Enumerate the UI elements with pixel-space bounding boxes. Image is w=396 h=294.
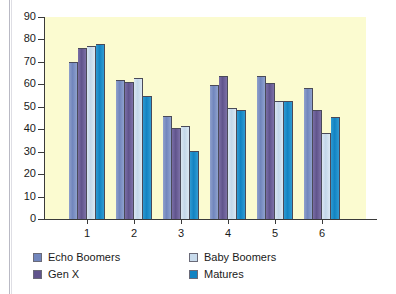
bar-echo-boomers-4[interactable]	[210, 85, 219, 219]
y-axis-tick-label: 40	[2, 123, 36, 134]
legend-item-echo-boomers[interactable]: Echo Boomers	[33, 250, 120, 264]
y-axis-tick	[38, 17, 44, 18]
bar-matures-2[interactable]	[143, 96, 152, 219]
legend-label: Echo Boomers	[48, 251, 120, 263]
y-axis-tick	[38, 84, 44, 85]
legend-swatch-icon	[33, 270, 42, 279]
legend-label: Gen X	[48, 268, 79, 280]
bar-gen-x-6[interactable]	[313, 110, 322, 219]
bar-baby-boomers-6[interactable]	[322, 133, 331, 219]
bar-echo-boomers-1[interactable]	[69, 62, 78, 219]
x-axis-tick-label: 5	[255, 228, 295, 239]
x-axis-tick-label: 3	[161, 228, 201, 239]
y-axis-tick	[38, 107, 44, 108]
y-axis-tick-label: 80	[2, 33, 36, 44]
y-axis-tick-label: 60	[2, 78, 36, 89]
x-axis-tick	[275, 220, 276, 224]
y-axis-tick	[38, 152, 44, 153]
y-axis-tick-label: 50	[2, 101, 36, 112]
legend-item-matures[interactable]: Matures	[189, 267, 244, 281]
bar-matures-3[interactable]	[190, 151, 199, 219]
y-axis-tick-label: 30	[2, 146, 36, 157]
bar-echo-boomers-6[interactable]	[304, 88, 313, 219]
chart-legend: Echo BoomersBaby BoomersGen XMatures	[33, 250, 333, 286]
legend-swatch-icon	[189, 253, 198, 262]
legend-swatch-icon	[33, 253, 42, 262]
x-axis-tick	[322, 220, 323, 224]
y-axis-tick	[38, 219, 44, 220]
bar-group	[69, 17, 105, 219]
legend-item-gen-x[interactable]: Gen X	[33, 267, 79, 281]
bar-groups	[45, 17, 366, 219]
y-axis-tick	[38, 197, 44, 198]
bar-baby-boomers-2[interactable]	[134, 78, 143, 219]
bar-matures-6[interactable]	[331, 117, 340, 219]
y-axis-tick	[38, 62, 44, 63]
y-axis-tick	[38, 174, 44, 175]
bar-baby-boomers-4[interactable]	[228, 108, 237, 219]
legend-label: Baby Boomers	[204, 251, 276, 263]
y-axis-labels: 0102030405060708090	[0, 0, 36, 294]
x-axis-tick-label: 4	[208, 228, 248, 239]
x-axis-tick	[228, 220, 229, 224]
bar-baby-boomers-1[interactable]	[87, 46, 96, 219]
y-axis-tick-label: 90	[2, 11, 36, 22]
bar-gen-x-4[interactable]	[219, 76, 228, 219]
legend-item-baby-boomers[interactable]: Baby Boomers	[189, 250, 276, 264]
y-axis-tick-label: 0	[2, 213, 36, 224]
y-axis-tick-label: 10	[2, 191, 36, 202]
bar-group	[116, 17, 152, 219]
bar-matures-5[interactable]	[284, 101, 293, 219]
legend-label: Matures	[204, 268, 244, 280]
bar-echo-boomers-2[interactable]	[116, 80, 125, 219]
bar-gen-x-3[interactable]	[172, 128, 181, 219]
x-axis-tick-label: 6	[302, 228, 342, 239]
bar-gen-x-1[interactable]	[78, 48, 87, 219]
bar-matures-1[interactable]	[96, 44, 105, 219]
bar-baby-boomers-3[interactable]	[181, 126, 190, 219]
bar-gen-x-5[interactable]	[266, 83, 275, 219]
y-axis-tick-label: 70	[2, 56, 36, 67]
x-axis-line	[44, 219, 377, 220]
bar-echo-boomers-3[interactable]	[163, 116, 172, 219]
chart-page: 0102030405060708090 Echo BoomersBaby Boo…	[0, 0, 396, 294]
bar-baby-boomers-5[interactable]	[275, 101, 284, 219]
bar-group	[304, 17, 340, 219]
bar-group	[257, 17, 293, 219]
y-axis-tick	[38, 39, 44, 40]
x-axis-tick	[181, 220, 182, 224]
legend-swatch-icon	[189, 270, 198, 279]
bar-echo-boomers-5[interactable]	[257, 76, 266, 219]
x-axis-tick-label: 2	[114, 228, 154, 239]
bar-gen-x-2[interactable]	[125, 82, 134, 219]
y-axis-tick	[38, 129, 44, 130]
bar-group	[210, 17, 246, 219]
x-axis-tick-label: 1	[67, 228, 107, 239]
x-axis-tick	[87, 220, 88, 224]
bar-group	[163, 17, 199, 219]
bar-matures-4[interactable]	[237, 110, 246, 219]
y-axis-tick-label: 20	[2, 168, 36, 179]
x-axis-tick	[134, 220, 135, 224]
